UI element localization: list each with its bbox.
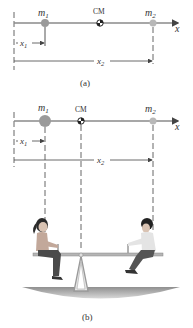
panel-a: x m1 CM m2 x1 x2 (a) bbox=[14, 7, 180, 88]
cm-label: CM bbox=[93, 7, 105, 16]
center-of-mass-diagram: x m1 CM m2 x1 x2 (a) x m1 CM bbox=[0, 0, 193, 328]
axis-label: x bbox=[174, 23, 180, 34]
mass1-dot bbox=[39, 115, 51, 127]
caption-a: (a) bbox=[80, 78, 90, 88]
cm-label: CM bbox=[75, 105, 87, 114]
panel-b: x m1 CM m2 x1 x2 bbox=[14, 102, 180, 322]
mass1-label: m1 bbox=[38, 102, 49, 115]
mass1-dot bbox=[41, 19, 49, 27]
mass2-dot bbox=[150, 118, 157, 125]
mass1-label: m1 bbox=[38, 7, 49, 20]
mass2-dot bbox=[150, 20, 157, 27]
ground bbox=[22, 287, 180, 299]
axis-label: x bbox=[174, 121, 180, 132]
mass2-label: m2 bbox=[145, 103, 156, 116]
caption-b: (b) bbox=[82, 312, 93, 322]
boy-figure bbox=[125, 218, 156, 274]
mass2-label: m2 bbox=[145, 7, 156, 20]
